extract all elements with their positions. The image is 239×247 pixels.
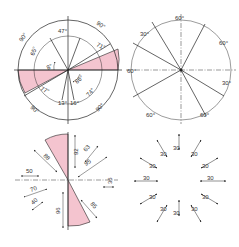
- svg-text:30: 30: [173, 145, 180, 151]
- svg-text:30°: 30°: [140, 31, 150, 37]
- svg-text:74°: 74°: [85, 86, 96, 97]
- svg-text:30: 30: [160, 206, 167, 212]
- svg-text:30: 30: [191, 206, 198, 212]
- svg-text:50: 50: [26, 168, 33, 174]
- svg-text:47°: 47°: [58, 28, 68, 34]
- svg-text:90°: 90°: [18, 31, 28, 42]
- svg-text:65°: 65°: [29, 45, 38, 56]
- svg-text:95: 95: [83, 158, 92, 167]
- svg-text:63: 63: [82, 143, 91, 152]
- svg-text:30: 30: [143, 175, 150, 181]
- panel-equal-angles: 60° 30° 60° 60° 30° 60° 60°: [126, 14, 236, 124]
- svg-text:60°: 60°: [127, 68, 137, 74]
- highlight-sector-right: [68, 49, 119, 70]
- svg-text:30: 30: [202, 194, 209, 200]
- svg-text:30: 30: [149, 194, 156, 200]
- svg-text:60°: 60°: [219, 40, 229, 46]
- panel-linear-dimensions: 92 88 63 95 50 36 70 40 96 85: [15, 132, 118, 230]
- svg-text:30: 30: [202, 163, 209, 169]
- panel-radial-dimensions: 30 30 30 30 30 30 30 30 30 30 30 30: [134, 134, 226, 222]
- svg-text:60°: 60°: [146, 112, 156, 118]
- svg-text:30: 30: [173, 210, 180, 216]
- svg-text:30: 30: [191, 151, 198, 157]
- svg-text:30°: 30°: [222, 80, 232, 86]
- svg-text:40: 40: [30, 196, 39, 205]
- panel-angular-dimensions: 90° 47° 90° 65° 71° 8° 86° 77° 74° 90° 1…: [14, 16, 122, 124]
- svg-text:85: 85: [89, 201, 98, 210]
- svg-text:30: 30: [207, 175, 214, 181]
- svg-text:77°: 77°: [40, 85, 51, 95]
- svg-text:90°: 90°: [95, 20, 106, 30]
- svg-text:60°: 60°: [175, 15, 185, 21]
- svg-text:36: 36: [107, 177, 113, 184]
- svg-text:70: 70: [29, 185, 38, 193]
- svg-text:90°: 90°: [29, 104, 40, 115]
- svg-text:8°: 8°: [46, 63, 54, 71]
- svg-text:90°: 90°: [94, 102, 105, 113]
- svg-text:30: 30: [149, 163, 156, 169]
- svg-text:13°: 13°: [58, 100, 68, 106]
- svg-text:16°: 16°: [70, 100, 80, 106]
- svg-text:92: 92: [73, 148, 79, 155]
- svg-text:86°: 86°: [74, 74, 85, 85]
- svg-text:96: 96: [55, 207, 61, 214]
- technical-drawing: 90° 47° 90° 65° 71° 8° 86° 77° 74° 90° 1…: [0, 0, 239, 247]
- svg-text:60°: 60°: [200, 112, 210, 118]
- svg-text:88: 88: [42, 152, 51, 161]
- svg-text:30: 30: [160, 151, 167, 157]
